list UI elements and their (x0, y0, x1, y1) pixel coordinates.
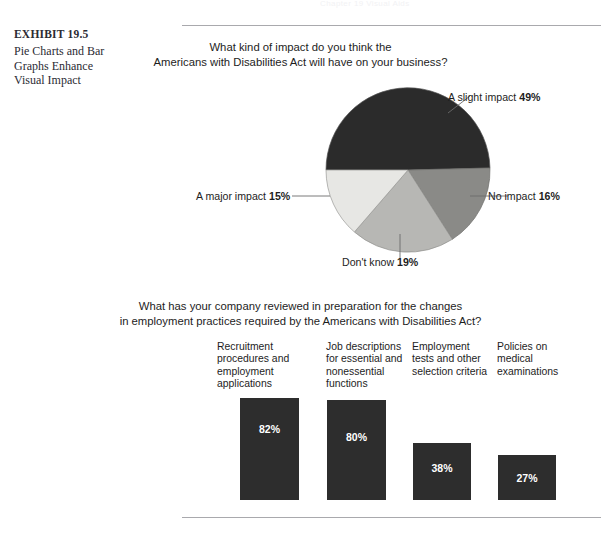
bar-value-label-2: 38% (413, 462, 471, 474)
bar-category-label-3-line-1: medical (497, 353, 592, 365)
bar-category-label-0: Recruitment procedures and employment ap… (217, 341, 317, 390)
exhibit-page: Chapter 19 Visual Aids EXHIBIT 19.5 Pie … (0, 0, 601, 543)
bar-category-label-3: Policies on medical examinations (497, 341, 592, 378)
bar-category-label-0-line-2: employment (217, 366, 317, 378)
bar-category-label-0-line-0: Recruitment (217, 341, 317, 353)
bar-value-label-0: 82% (240, 423, 299, 435)
bar-rect-0 (240, 398, 299, 500)
bar-category-label-3-line-2: examinations (497, 366, 592, 378)
bar-category-label-1-line-3: functions (326, 378, 429, 390)
bar-value-label-1: 80% (327, 431, 386, 443)
bar-chart: Recruitment procedures and employment ap… (0, 0, 601, 543)
bar-category-label-3-line-0: Policies on (497, 341, 592, 353)
bar-category-label-0-line-3: applications (217, 378, 317, 390)
bar-value-label-3: 27% (498, 472, 556, 484)
bar-category-label-0-line-1: procedures and (217, 353, 317, 365)
bar-rect-1 (327, 400, 386, 500)
